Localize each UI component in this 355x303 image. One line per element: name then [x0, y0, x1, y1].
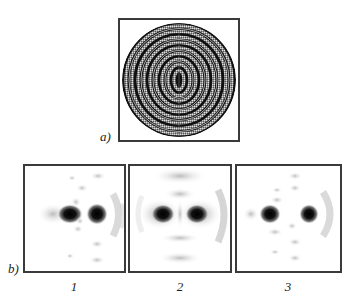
- panel-b1-frame: [23, 164, 126, 273]
- panel-b3-frame: [235, 164, 342, 273]
- intensity-image-3: [237, 166, 340, 271]
- subpanel-3-label: 3: [278, 280, 298, 293]
- panel-a-frame: [118, 18, 240, 142]
- ring-pattern-image: [120, 20, 238, 140]
- panel-a-label: a): [100, 130, 111, 143]
- subpanel-1-label: 1: [64, 280, 84, 293]
- panel-b-label: b): [8, 262, 19, 275]
- panel-b2-frame: [128, 164, 232, 273]
- intensity-image-1: [25, 166, 124, 271]
- intensity-image-2: [130, 166, 230, 271]
- subpanel-2-label: 2: [170, 280, 190, 293]
